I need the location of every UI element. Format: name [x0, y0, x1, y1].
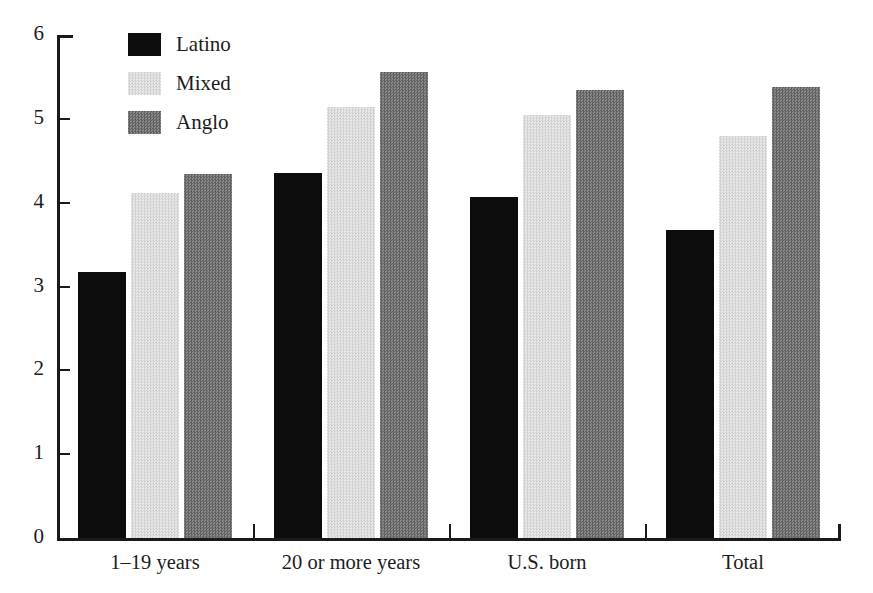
- y-axis-bottom-cap: [57, 538, 73, 541]
- legend-swatch-latino: [128, 33, 161, 56]
- bar-latino-1: [78, 272, 126, 538]
- bar-mixed-3: [523, 115, 571, 538]
- y-axis-tick-label: 0: [18, 526, 44, 547]
- y-axis-tick-label: 2: [18, 358, 44, 379]
- bar-mixed-4: [719, 136, 767, 538]
- bar-anglo-1: [184, 174, 232, 538]
- bar-latino-3: [470, 197, 518, 538]
- bar-latino-2: [274, 173, 322, 538]
- x-axis-category-label: U.S. born: [449, 551, 645, 574]
- bar-chart: 0123456 1–19 years20 or more yearsU.S. b…: [0, 0, 873, 593]
- bar-latino-4: [666, 230, 714, 538]
- legend-swatch-mixed: [128, 72, 161, 95]
- plot-area: [57, 35, 841, 538]
- y-axis-tick-label: 1: [18, 442, 44, 463]
- legend-label: Anglo: [176, 108, 229, 136]
- x-axis-category-label: 20 or more years: [253, 551, 449, 574]
- bar-anglo-4: [772, 87, 820, 538]
- legend-label: Latino: [176, 30, 231, 58]
- legend-swatch-anglo: [128, 111, 161, 134]
- legend-label: Mixed: [176, 69, 231, 97]
- x-axis-group-tick: [449, 524, 451, 539]
- x-axis-group-tick: [253, 524, 255, 539]
- y-axis-tick-label: 5: [18, 107, 44, 128]
- y-axis-tick-label: 3: [18, 275, 44, 296]
- x-axis-category-label: Total: [645, 551, 841, 574]
- bar-anglo-3: [576, 90, 624, 538]
- y-axis-tick-label: 4: [18, 191, 44, 212]
- y-axis-tick-label: 6: [18, 23, 44, 44]
- x-axis-category-label: 1–19 years: [57, 551, 253, 574]
- x-axis-group-tick: [645, 524, 647, 539]
- bar-mixed-1: [131, 193, 179, 538]
- bar-mixed-2: [327, 107, 375, 538]
- bar-anglo-2: [380, 72, 428, 538]
